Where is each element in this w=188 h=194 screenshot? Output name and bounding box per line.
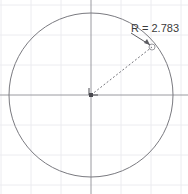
sketch-svg[interactable]: R = 2.783	[0, 0, 188, 194]
sketch-canvas[interactable]: R = 2.783	[0, 0, 188, 194]
radius-dimension-label[interactable]: R = 2.783	[131, 22, 179, 34]
dimension-arrow-head	[144, 39, 150, 45]
circle-center-marker[interactable]	[89, 88, 98, 97]
